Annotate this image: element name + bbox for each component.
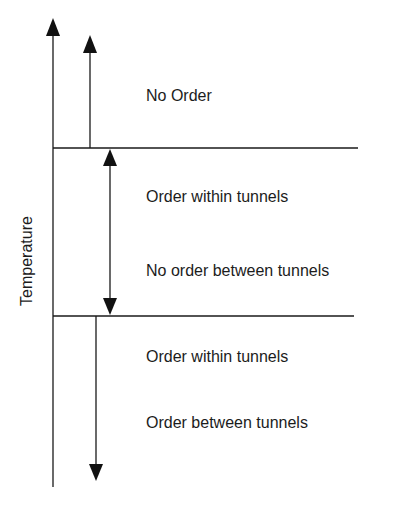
arrowhead-down-icon [89, 464, 103, 481]
region-low-label-1: Order within tunnels [146, 349, 288, 365]
full-order-range-arrow [89, 316, 103, 481]
region-middle-label-1: Order within tunnels [146, 189, 288, 205]
region-high-label: No Order [146, 88, 212, 104]
temperature-axis-label: Temperature [19, 216, 35, 306]
region-low-label-2: Order between tunnels [146, 415, 308, 431]
arrowhead-down-icon [103, 298, 117, 315]
partial-order-range-arrow [103, 149, 117, 315]
arrowhead-up-icon [103, 149, 117, 166]
temperature-axis [46, 18, 60, 487]
no-order-range-arrow [83, 35, 97, 148]
region-middle-label-2: No order between tunnels [146, 263, 329, 279]
axis-arrowhead-up-icon [46, 18, 60, 36]
arrowhead-up-icon [83, 35, 97, 53]
